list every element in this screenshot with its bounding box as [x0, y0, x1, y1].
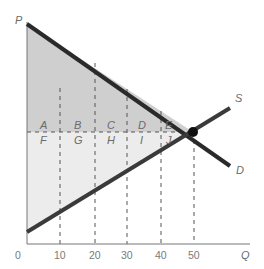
demand-label: D	[236, 164, 244, 176]
region-h: H	[107, 134, 115, 146]
equilibrium-point	[188, 127, 198, 137]
region-b: B	[74, 119, 81, 131]
p-axis-label: P	[15, 14, 23, 26]
tick-10: 10	[54, 249, 66, 261]
region-i: I	[140, 134, 143, 146]
region-g: G	[74, 134, 83, 146]
tick-30: 30	[121, 249, 133, 261]
supply-demand-diagram: P Q S D 0 10 20 30 40 50 A B C D E F G H…	[0, 0, 264, 269]
region-a: A	[39, 119, 47, 131]
region-c: C	[107, 119, 115, 131]
tick-50: 50	[188, 249, 200, 261]
tick-20: 20	[89, 249, 101, 261]
q-axis-label: Q	[241, 249, 250, 261]
x-tick-labels: 0 10 20 30 40 50	[15, 249, 200, 261]
tick-0: 0	[15, 249, 21, 261]
region-j: J	[165, 134, 172, 146]
tick-40: 40	[155, 249, 167, 261]
supply-label: S	[235, 92, 243, 104]
region-e: E	[165, 119, 173, 131]
region-d: D	[138, 119, 146, 131]
